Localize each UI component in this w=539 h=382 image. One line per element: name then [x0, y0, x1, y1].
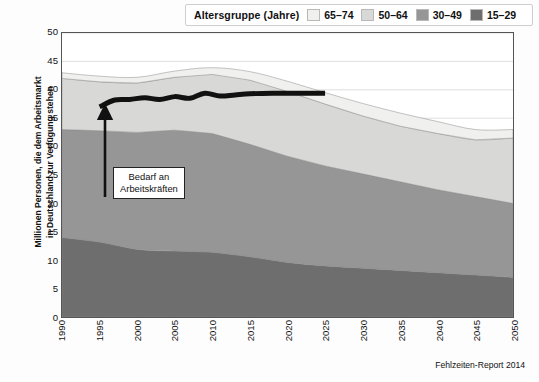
x-tick-label: 1990: [56, 320, 67, 341]
y-tick-label: 35: [32, 112, 58, 123]
y-tick-label: 30: [32, 140, 58, 151]
x-tick-label: 2015: [245, 320, 256, 341]
y-tick-label: 50: [32, 26, 58, 37]
legend-label-50-64: 50–64: [378, 9, 407, 21]
chart-legend: Altersgruppe (Jahre) 65–74 50–64 30–49 1…: [185, 4, 533, 26]
annotation-label: Bedarf an Arbeitskräften: [113, 167, 185, 199]
legend-item-15-29: 15–29: [470, 9, 516, 21]
x-tick-label: 2050: [509, 320, 520, 341]
x-tick-label: 2020: [283, 320, 294, 341]
y-tick-label: 10: [32, 255, 58, 266]
legend-label-65-74: 65–74: [324, 9, 353, 21]
y-tick-label: 5: [32, 283, 58, 294]
annotation-line-1: Bedarf an: [120, 171, 178, 183]
legend-swatch-15-29: [470, 9, 483, 21]
x-axis-ticks: 1990199520002005201020152020202520302035…: [61, 320, 516, 364]
y-tick-label: 40: [32, 83, 58, 94]
legend-label-15-29: 15–29: [487, 9, 516, 21]
legend-swatch-65-74: [307, 9, 320, 21]
chart-figure: Altersgruppe (Jahre) 65–74 50–64 30–49 1…: [0, 0, 539, 382]
x-tick-label: 2040: [434, 320, 445, 341]
legend-title: Altersgruppe (Jahre): [194, 9, 299, 21]
legend-swatch-30-49: [416, 9, 429, 21]
source-note: Fehlzeiten-Report 2014: [435, 360, 525, 370]
y-tick-label: 25: [32, 169, 58, 180]
x-tick-label: 2000: [132, 320, 143, 341]
x-tick-label: 1995: [94, 320, 105, 341]
legend-label-30-49: 30–49: [433, 9, 462, 21]
annotation-line-2: Arbeitskräften: [120, 183, 178, 195]
y-tick-label: 45: [32, 55, 58, 66]
y-tick-label: 20: [32, 198, 58, 209]
legend-swatch-50-64: [361, 9, 374, 21]
legend-item-65-74: 65–74: [307, 9, 353, 21]
x-tick-label: 2030: [358, 320, 369, 341]
y-axis-ticks: 05101520253035404550: [30, 32, 58, 318]
y-tick-label: 15: [32, 226, 58, 237]
y-tick-label: 0: [32, 312, 58, 323]
x-tick-label: 2005: [169, 320, 180, 341]
x-tick-label: 2010: [207, 320, 218, 341]
x-tick-label: 2025: [320, 320, 331, 341]
x-tick-label: 2035: [396, 320, 407, 341]
x-tick-label: 2045: [471, 320, 482, 341]
legend-item-50-64: 50–64: [361, 9, 407, 21]
legend-item-30-49: 30–49: [416, 9, 462, 21]
